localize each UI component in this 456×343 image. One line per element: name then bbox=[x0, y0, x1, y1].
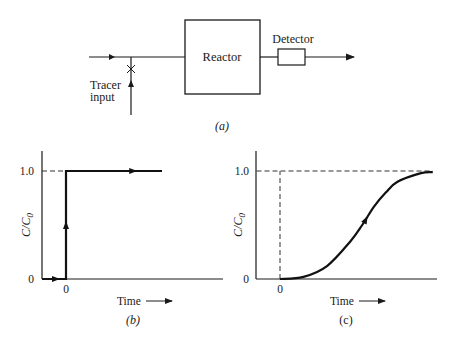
series-line-S-shaped-response bbox=[280, 172, 433, 279]
direction-arrow-icon bbox=[129, 168, 137, 174]
tracer-arrow-icon bbox=[128, 80, 134, 87]
b-ytick-1: 1.0 bbox=[20, 165, 35, 177]
detector-label: Detector bbox=[272, 32, 313, 46]
c-ytick-0: 0 bbox=[243, 273, 249, 285]
c-ylabel: C/C0 bbox=[231, 213, 247, 237]
b-ytick-0: 0 bbox=[28, 273, 34, 285]
c-ytick-1: 1.0 bbox=[235, 165, 250, 177]
b-xlabel: Time bbox=[117, 295, 141, 307]
panel-a-diagram: Tracer input Reactor Detector (a) bbox=[89, 20, 354, 133]
c-xtick-0: 0 bbox=[277, 283, 283, 295]
tracer-label-2: input bbox=[90, 90, 115, 104]
figure: Tracer input Reactor Detector (a) 1.0 0 … bbox=[0, 0, 456, 343]
detector-box bbox=[278, 49, 305, 65]
panel-b-chart: 1.0 0 0 C/C0 Time (b) bbox=[19, 151, 223, 327]
reactor-label: Reactor bbox=[203, 50, 243, 64]
direction-arrow-icon bbox=[52, 276, 60, 282]
b-plot-area bbox=[42, 168, 162, 282]
inlet-arrow-icon bbox=[109, 54, 115, 60]
b-ylabel: C/C0 bbox=[19, 213, 35, 237]
c-plot-area bbox=[257, 171, 433, 279]
panel-c-chart: 1.0 0 0 C/C0 Time (c) bbox=[231, 151, 437, 327]
b-xtick-0: 0 bbox=[63, 283, 69, 295]
series-line-step-response bbox=[42, 171, 162, 279]
caption-c: (c) bbox=[339, 313, 352, 327]
caption-a: (a) bbox=[215, 119, 229, 133]
c-xlabel: Time bbox=[330, 295, 354, 307]
direction-arrow-icon bbox=[63, 221, 69, 229]
caption-b: (b) bbox=[126, 313, 140, 327]
